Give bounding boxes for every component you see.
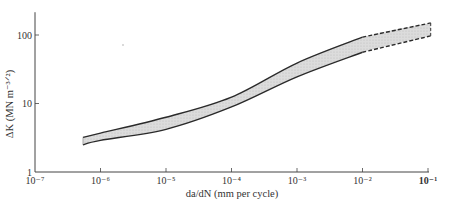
y-axis-title: ΔK (MN m⁻³ᐟ²) xyxy=(4,69,16,138)
x-tick-label: 10⁻⁶ xyxy=(91,175,110,186)
x-tick-label: 10⁻¹ xyxy=(419,175,437,186)
y-tick-label: 1 xyxy=(27,167,32,178)
x-tick-label: 10⁻³ xyxy=(288,175,306,186)
x-tick-label: 10⁻⁵ xyxy=(157,175,176,186)
x-tick-label: 10⁻² xyxy=(353,175,371,186)
x-tick-label: 10⁻⁴ xyxy=(222,175,241,186)
y-tick-label: 100 xyxy=(17,30,32,41)
fatigue-crack-growth-chart: 10⁻⁷10⁻⁶10⁻⁵10⁻⁴10⁻³10⁻²10⁻¹110100 da/dN… xyxy=(0,0,450,204)
x-axis-title: da/dN (mm per cycle) xyxy=(186,188,279,200)
scatter-band xyxy=(83,23,431,145)
y-tick-label: 10 xyxy=(22,98,32,109)
upper-bound-line xyxy=(83,37,363,137)
speck xyxy=(122,44,124,46)
